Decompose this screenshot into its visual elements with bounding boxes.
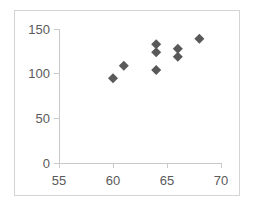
y-axis-tick-labels: 050100150 bbox=[28, 22, 50, 171]
data-point bbox=[119, 61, 129, 71]
y-tick-label-100: 100 bbox=[28, 66, 50, 81]
y-axis-ticks bbox=[54, 29, 59, 163]
x-tick-label-70: 70 bbox=[214, 173, 228, 188]
data-point-series bbox=[108, 34, 204, 83]
data-point bbox=[151, 65, 161, 75]
x-tick-label-55: 55 bbox=[52, 173, 66, 188]
chart-frame: 050100150 55606570 bbox=[14, 10, 240, 196]
data-point bbox=[194, 34, 204, 44]
x-axis-ticks bbox=[59, 163, 221, 168]
x-axis-tick-labels: 55606570 bbox=[52, 173, 228, 188]
y-tick-label-150: 150 bbox=[28, 22, 50, 37]
y-axis-group: 050100150 bbox=[28, 22, 59, 171]
x-tick-label-65: 65 bbox=[160, 173, 174, 188]
data-point bbox=[151, 39, 161, 49]
x-axis-group: 55606570 bbox=[52, 163, 228, 188]
data-point bbox=[173, 44, 183, 54]
scatter-plot: 050100150 55606570 bbox=[15, 11, 239, 195]
y-tick-label-0: 0 bbox=[43, 156, 50, 171]
x-tick-label-60: 60 bbox=[106, 173, 120, 188]
y-tick-label-50: 50 bbox=[36, 111, 50, 126]
data-point bbox=[108, 73, 118, 83]
